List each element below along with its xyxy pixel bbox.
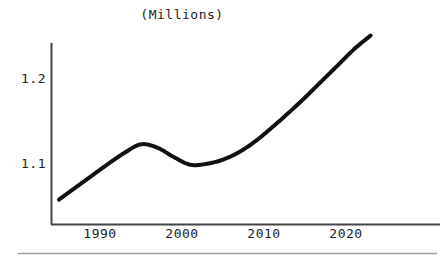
data-series-line [59, 36, 371, 200]
chart-figure: (Millions) 1.2 1.1 1990 2000 2010 2020 [0, 0, 447, 264]
plot-area [0, 0, 447, 264]
